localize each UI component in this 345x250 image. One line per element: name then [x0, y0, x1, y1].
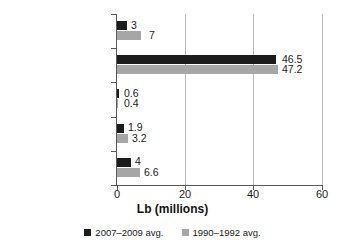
gridline-60 [322, 14, 323, 185]
y-axis-tick [111, 48, 116, 49]
chart-legend: 2007–2009 avg. 1990–1992 avg. [0, 227, 345, 238]
value-label-gray-alabama: 3.2 [132, 133, 147, 143]
legend-swatch-icon-gray [182, 229, 189, 236]
bar-gray-texas [117, 31, 141, 40]
y-axis-tick [111, 151, 116, 152]
x-axis-line [116, 185, 323, 186]
bar-dark-mississippi [117, 89, 119, 98]
bar-dark-louisiana [117, 55, 276, 64]
plot-area: Texas 3 7 Louisiana 46.5 47.2 Mississipp… [117, 14, 322, 185]
bar-gray-florida [117, 168, 140, 177]
bar-gray-alabama [117, 134, 128, 143]
bar-dark-alabama [117, 124, 124, 133]
x-axis-title: Lb (millions) [0, 202, 345, 216]
legend-label-2007-2009: 2007–2009 avg. [95, 227, 163, 238]
legend-swatch-icon-dark [84, 229, 91, 236]
value-label-dark-texas: 3 [131, 20, 137, 30]
bar-dark-florida [117, 158, 131, 167]
x-tick-label-0: 0 [97, 188, 137, 200]
bar-gray-louisiana [117, 65, 278, 74]
value-label-dark-mississippi: 0.6 [124, 88, 139, 98]
legend-item-1990-1992: 1990–1992 avg. [182, 227, 261, 238]
y-axis-tick [111, 14, 116, 15]
value-label-gray-texas: 7 [149, 30, 155, 40]
value-label-dark-florida: 4 [135, 156, 141, 166]
category-group-louisiana: Louisiana 46.5 47.2 [117, 48, 322, 82]
value-label-dark-alabama: 1.9 [128, 122, 143, 132]
bar-gray-mississippi [117, 99, 118, 108]
legend-label-1990-1992: 1990–1992 avg. [193, 227, 261, 238]
x-tick-label-40: 40 [233, 188, 273, 200]
value-label-dark-louisiana: 46.5 [282, 54, 302, 64]
value-label-gray-florida: 6.6 [144, 167, 159, 177]
bar-dark-texas [117, 21, 127, 30]
y-axis-tick [111, 185, 116, 186]
x-tick-label-20: 20 [165, 188, 205, 200]
bar-chart: Texas 3 7 Louisiana 46.5 47.2 Mississipp… [0, 0, 345, 250]
x-tick-label-60: 60 [302, 188, 342, 200]
y-axis-tick [111, 82, 116, 83]
category-group-texas: Texas 3 7 [117, 14, 322, 48]
value-label-gray-louisiana: 47.2 [282, 64, 302, 74]
legend-item-2007-2009: 2007–2009 avg. [84, 227, 163, 238]
category-group-alabama: Alabama 1.9 3.2 [117, 117, 322, 151]
y-axis-tick [111, 117, 116, 118]
category-group-florida: Florida (west coast) 4 6.6 [117, 151, 322, 185]
category-group-mississippi: Mississippi 0.6 0.4 [117, 82, 322, 116]
value-label-gray-mississippi: 0.4 [124, 98, 139, 108]
